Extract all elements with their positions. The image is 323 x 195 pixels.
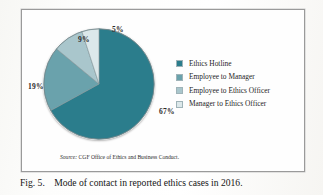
legend: Ethics Hotline Employee to Manager Emplo… [176,57,301,111]
chart-frame: 67% 19% 9% 5% Ethics Hotline Employee to… [21,9,305,172]
pie-label-employee-to-ethics-officer: 9% [78,35,90,44]
source-text: CGF Office of Ethics and Business Conduc… [79,154,179,160]
legend-item-label: Employee to Ethics Officer [189,87,270,94]
legend-item-label: Ethics Hotline [189,60,232,67]
pie-label-employee-to-manager: 19% [28,82,44,91]
legend-item-employee-to-ethics-officer[interactable]: Employee to Ethics Officer [176,84,301,97]
figure-caption: Fig. 5. Mode of contact in reported ethi… [20,177,320,188]
pie-chart [43,28,155,140]
figure-root: 67% 19% 9% 5% Ethics Hotline Employee to… [0,0,323,195]
pie-label-ethics-hotline: 67% [159,107,175,116]
figure-caption-text: Mode of contact in reported ethics cases… [54,177,242,188]
legend-item-ethics-hotline[interactable]: Ethics Hotline [176,57,301,70]
source-note: Source: CGF Office of Ethics and Busines… [60,154,179,160]
legend-swatch-icon [176,87,183,94]
source-prefix: Source: [60,154,77,160]
pie-graphic [43,28,155,140]
legend-swatch-icon [176,60,183,67]
pie-label-manager-to-ethics-officer: 5% [112,25,124,34]
legend-item-label: Manager to Ethics Officer [189,100,266,107]
legend-swatch-icon [176,101,183,108]
legend-item-label: Employee to Manager [189,73,255,80]
chart-area: 67% 19% 9% 5% Ethics Hotline Employee to… [22,10,306,173]
legend-swatch-icon [176,74,183,81]
figure-number: Fig. 5. [20,177,45,188]
pie-svg [43,28,155,140]
legend-item-manager-to-ethics-officer[interactable]: Manager to Ethics Officer [176,98,301,111]
legend-item-employee-to-manager[interactable]: Employee to Manager [176,71,301,84]
